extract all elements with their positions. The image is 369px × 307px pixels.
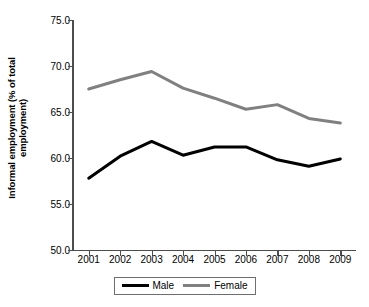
legend-entry-male: Male xyxy=(121,280,174,291)
x-axis-tick-label: 2009 xyxy=(329,254,351,265)
x-axis-tick-label: 2004 xyxy=(172,254,194,265)
y-axis-tick-mark xyxy=(68,112,73,113)
y-axis-tick-label: 65.0 xyxy=(40,107,70,118)
y-axis-title-line2: employment) xyxy=(17,98,28,156)
legend-entry-female: Female xyxy=(183,280,247,291)
y-axis-tick-mark xyxy=(68,250,73,251)
line-chart-figure: Informal employment (% of total employme… xyxy=(0,0,369,307)
x-axis-tick-label: 2006 xyxy=(235,254,257,265)
y-axis-tick-mark xyxy=(68,20,73,21)
plot-area xyxy=(73,20,356,250)
chart-legend: MaleFemale xyxy=(113,277,255,295)
series-line-male xyxy=(89,141,341,178)
y-axis-title: Informal employment (% of total employme… xyxy=(0,0,34,255)
y-axis-tick-label: 55.0 xyxy=(40,199,70,210)
y-axis-tick-mark xyxy=(68,66,73,67)
y-axis-tick-label: 70.0 xyxy=(40,61,70,72)
y-axis-tick-label: 60.0 xyxy=(40,153,70,164)
y-axis-tick-labels: 75.070.065.060.055.050.0 xyxy=(34,0,70,307)
series-line-female xyxy=(89,72,341,124)
legend-line-swatch xyxy=(183,284,210,287)
y-axis-tick-label: 50.0 xyxy=(40,245,70,256)
y-axis-tick-mark xyxy=(68,158,73,159)
legend-label: Female xyxy=(214,280,247,291)
x-axis-tick-label: 2005 xyxy=(203,254,225,265)
legend-line-swatch xyxy=(121,284,148,287)
x-axis-tick-label: 2002 xyxy=(109,254,131,265)
x-axis-tick-label: 2008 xyxy=(298,254,320,265)
x-axis-tick-label: 2007 xyxy=(266,254,288,265)
y-axis-tick-label: 75.0 xyxy=(40,15,70,26)
x-axis-tick-labels: 200120022003200420052006200720082009 xyxy=(73,254,356,270)
y-axis-title-line1: Informal employment (% of total xyxy=(6,57,17,199)
y-axis-tick-mark xyxy=(68,204,73,205)
legend-label: Male xyxy=(152,280,174,291)
x-axis-tick-label: 2001 xyxy=(78,254,100,265)
x-axis-tick-label: 2003 xyxy=(140,254,162,265)
data-series-group xyxy=(73,20,356,250)
